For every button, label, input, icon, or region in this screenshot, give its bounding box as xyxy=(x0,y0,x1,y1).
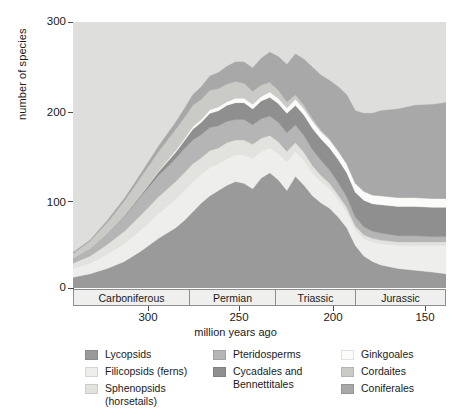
legend-swatch-filicopsids xyxy=(85,367,98,377)
legend-label-filicopsids: Filicopsids (ferns) xyxy=(105,365,187,378)
legend-swatch-sphenopsids xyxy=(85,384,98,394)
legend-label-pteridosperms: Pteridosperms xyxy=(233,348,301,361)
period-permian: Permian xyxy=(190,290,276,305)
x-tick-150: 150 xyxy=(403,311,447,323)
y-tick-300: 300 xyxy=(26,16,66,28)
y-tick-200: 200 xyxy=(26,107,66,119)
legend-swatch-coniferales xyxy=(341,384,354,394)
legend-item-sphenopsids: Sphenopsids (horsetails) xyxy=(85,382,213,408)
legend-item-cordaites: Cordaites xyxy=(341,365,455,378)
x-tick-250: 250 xyxy=(217,311,261,323)
legend-swatch-lycopsids xyxy=(85,350,98,360)
legend-column-2: Pteridosperms Cycadales and Bennettitale… xyxy=(213,348,341,411)
legend-column-3: Ginkgoales Cordaites Coniferales xyxy=(341,348,455,411)
legend-label-cordaites: Cordaites xyxy=(361,365,406,378)
legend-label-cycadales: Cycadales and Bennettitales xyxy=(233,365,302,391)
legend-label-coniferales: Coniferales xyxy=(361,382,414,395)
stacked-area-chart xyxy=(73,22,446,288)
period-jurassic: Jurassic xyxy=(356,290,445,305)
legend-swatch-cycadales xyxy=(213,367,226,377)
legend-item-ginkgoales: Ginkgoales xyxy=(341,348,455,361)
legend-item-lycopsids: Lycopsids xyxy=(85,348,213,361)
legend-label-ginkgoales: Ginkgoales xyxy=(361,348,414,361)
legend-item-cycadales: Cycadales and Bennettitales xyxy=(213,365,341,391)
legend-column-1: Lycopsids Filicopsids (ferns) Sphenopsid… xyxy=(85,348,213,411)
legend-swatch-cordaites xyxy=(341,367,354,377)
legend-swatch-ginkgoales xyxy=(341,350,354,360)
legend-label-lycopsids: Lycopsids xyxy=(105,348,151,361)
y-tick-0: 0 xyxy=(26,282,66,294)
period-carboniferous: Carboniferous xyxy=(74,290,190,305)
legend-label-sphenopsids: Sphenopsids (horsetails) xyxy=(105,382,166,408)
legend-item-pteridosperms: Pteridosperms xyxy=(213,348,341,361)
x-axis-label: million years ago xyxy=(0,326,471,338)
x-tick-300: 300 xyxy=(126,311,170,323)
period-triassic: Triassic xyxy=(276,290,356,305)
geologic-period-band: Carboniferous Permian Triassic Jurassic xyxy=(73,289,446,306)
legend-item-coniferales: Coniferales xyxy=(341,382,455,395)
legend-swatch-pteridosperms xyxy=(213,350,226,360)
y-tick-100: 100 xyxy=(26,197,66,209)
chart-legend: Lycopsids Filicopsids (ferns) Sphenopsid… xyxy=(85,348,455,411)
x-tick-200: 200 xyxy=(311,311,355,323)
legend-item-filicopsids: Filicopsids (ferns) xyxy=(85,365,213,378)
chart-svg xyxy=(73,22,446,288)
